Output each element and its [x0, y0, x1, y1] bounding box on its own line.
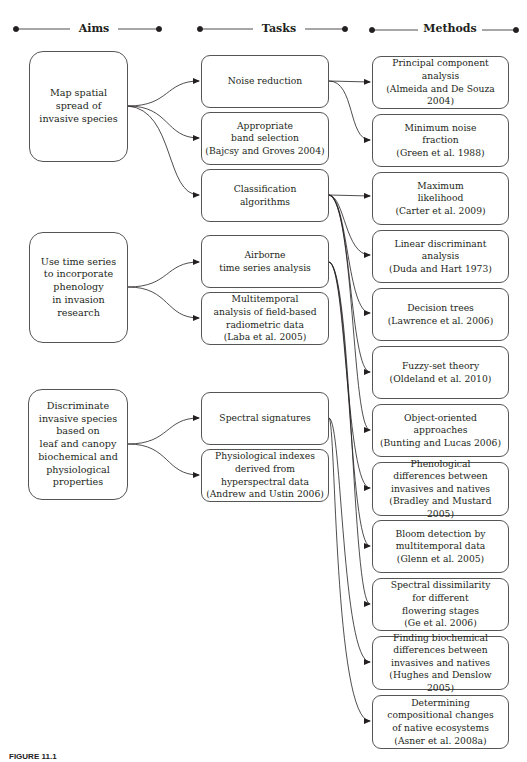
method-box-lda: Linear discriminant analysis (Duda and H…: [372, 230, 509, 283]
figure-caption: FIGURE 11.1: [9, 752, 57, 761]
aim-box-discriminate-species: Discriminate invasive species based on l…: [28, 389, 128, 500]
method-box-pca: Principal component analysis (Almeida an…: [372, 56, 509, 109]
method-box-spectral-dissimilarity: Spectral dissimilarity for different flo…: [372, 578, 509, 631]
aim-box-time-series-phenology: Use time series to incorporate phenology…: [29, 232, 128, 343]
column-header-methods: Methods: [418, 21, 482, 37]
task-box-physiological-indexes: Physiological indexes derived from hyper…: [201, 449, 329, 502]
method-box-bloom-detection: Bloom detection by multitemporal data (G…: [372, 520, 509, 573]
column-header-tasks: Tasks: [253, 21, 305, 37]
task-box-spectral-signatures: Spectral signatures: [201, 392, 329, 445]
method-box-biochemical-differences: Finding biochemical differences between …: [372, 636, 509, 690]
method-box-phenological-differences: Phenological differences between invasiv…: [372, 462, 509, 516]
method-box-decision-trees: Decision trees (Lawrence et al. 2006): [372, 288, 509, 341]
method-box-maximum-likelihood: Maximum likelihood (Carter et al. 2009): [372, 172, 509, 225]
task-box-airborne-time-series: Airborne time series analysis: [201, 235, 329, 288]
column-header-aims: Aims: [70, 21, 118, 37]
aim-box-map-spatial-spread: Map spatial spread of invasive species: [29, 51, 128, 162]
task-box-multitemporal-analysis: Multitemporal analysis of field-based ra…: [201, 292, 329, 345]
task-box-band-selection: Appropriate band selection (Bajcsy and G…: [201, 112, 329, 165]
method-box-object-oriented: Object-oriented approaches (Bunting and …: [372, 404, 509, 457]
task-box-classification-algorithms: Classification algorithms: [201, 169, 329, 222]
method-box-fuzzy-set: Fuzzy-set theory (Oldeland et al. 2010): [372, 346, 509, 399]
task-box-noise-reduction: Noise reduction: [201, 55, 329, 108]
method-box-mnf: Minimum noise fraction (Green et al. 198…: [372, 114, 509, 167]
method-box-compositional-changes: Determining compositional changes of nat…: [372, 695, 509, 749]
